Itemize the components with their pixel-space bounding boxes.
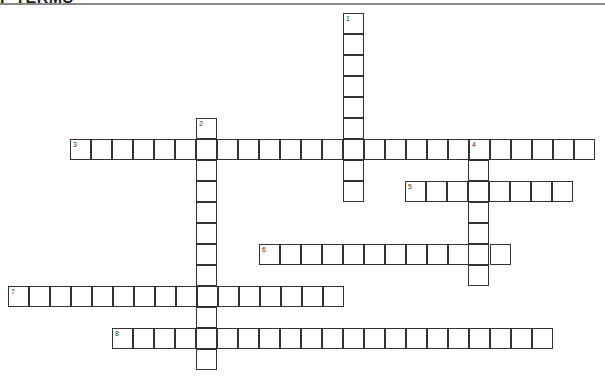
- crossword-cell[interactable]: [427, 328, 448, 349]
- crossword-cell[interactable]: [510, 181, 531, 202]
- crossword-cell[interactable]: [175, 139, 196, 160]
- crossword-cell[interactable]: 1: [343, 13, 364, 34]
- crossword-cell[interactable]: [133, 328, 154, 349]
- crossword-cell[interactable]: [323, 286, 344, 307]
- crossword-cell[interactable]: [134, 286, 155, 307]
- crossword-cell[interactable]: [259, 139, 280, 160]
- crossword-cell[interactable]: [322, 244, 343, 265]
- crossword-cell[interactable]: [343, 181, 364, 202]
- crossword-cell[interactable]: [280, 328, 301, 349]
- crossword-cell[interactable]: [511, 328, 532, 349]
- crossword-cell[interactable]: [217, 139, 238, 160]
- crossword-cell[interactable]: [553, 139, 574, 160]
- crossword-cell[interactable]: [343, 34, 364, 55]
- crossword-cell[interactable]: [196, 265, 217, 286]
- crossword-cell[interactable]: [238, 139, 259, 160]
- crossword-cell[interactable]: [490, 139, 511, 160]
- crossword-cell[interactable]: 8: [112, 328, 133, 349]
- crossword-cell[interactable]: 4: [469, 139, 490, 160]
- crossword-cell[interactable]: [490, 244, 511, 265]
- crossword-cell[interactable]: [176, 286, 197, 307]
- crossword-cell[interactable]: [406, 328, 427, 349]
- crossword-cell[interactable]: [301, 244, 322, 265]
- crossword-cell[interactable]: [196, 328, 217, 349]
- crossword-cell[interactable]: [280, 244, 301, 265]
- crossword-cell[interactable]: [343, 328, 364, 349]
- crossword-cell[interactable]: [133, 139, 154, 160]
- crossword-cell[interactable]: [322, 139, 343, 160]
- crossword-cell[interactable]: 5: [405, 181, 426, 202]
- crossword-cell[interactable]: [448, 244, 469, 265]
- crossword-cell[interactable]: [468, 223, 489, 244]
- crossword-cell[interactable]: [301, 328, 322, 349]
- crossword-cell[interactable]: [574, 139, 595, 160]
- crossword-cell[interactable]: [468, 265, 489, 286]
- crossword-cell[interactable]: [196, 223, 217, 244]
- crossword-cell[interactable]: [532, 328, 553, 349]
- crossword-cell[interactable]: [448, 139, 469, 160]
- crossword-cell[interactable]: [280, 139, 301, 160]
- crossword-cell[interactable]: [447, 181, 468, 202]
- crossword-cell[interactable]: [406, 139, 427, 160]
- crossword-cell[interactable]: [406, 244, 427, 265]
- crossword-cell[interactable]: [175, 328, 196, 349]
- crossword-cell[interactable]: [301, 139, 322, 160]
- crossword-cell[interactable]: [427, 244, 448, 265]
- crossword-cell[interactable]: [364, 139, 385, 160]
- crossword-cell[interactable]: 6: [259, 244, 280, 265]
- crossword-cell[interactable]: [343, 76, 364, 97]
- crossword-cell[interactable]: [92, 286, 113, 307]
- crossword-cell[interactable]: [260, 286, 281, 307]
- crossword-cell[interactable]: [343, 55, 364, 76]
- crossword-cell[interactable]: [196, 160, 217, 181]
- crossword-cell[interactable]: 2: [196, 118, 217, 139]
- crossword-cell[interactable]: [343, 118, 364, 139]
- crossword-cell[interactable]: [343, 160, 364, 181]
- crossword-cell[interactable]: [196, 181, 217, 202]
- crossword-cell[interactable]: [511, 139, 532, 160]
- crossword-cell[interactable]: [448, 328, 469, 349]
- crossword-cell[interactable]: [385, 244, 406, 265]
- crossword-cell[interactable]: [364, 244, 385, 265]
- crossword-cell[interactable]: [281, 286, 302, 307]
- crossword-cell[interactable]: [343, 139, 364, 160]
- crossword-cell[interactable]: [427, 139, 448, 160]
- crossword-cell[interactable]: [468, 202, 489, 223]
- crossword-cell[interactable]: [112, 139, 133, 160]
- crossword-cell[interactable]: [218, 286, 239, 307]
- crossword-cell[interactable]: [239, 286, 260, 307]
- crossword-cell[interactable]: [531, 181, 552, 202]
- crossword-cell[interactable]: [113, 286, 134, 307]
- crossword-cell[interactable]: [469, 328, 490, 349]
- crossword-cell[interactable]: [302, 286, 323, 307]
- crossword-cell[interactable]: [259, 328, 280, 349]
- crossword-cell[interactable]: 7: [8, 286, 29, 307]
- crossword-cell[interactable]: [426, 181, 447, 202]
- crossword-cell[interactable]: [385, 328, 406, 349]
- crossword-cell[interactable]: [468, 181, 489, 202]
- crossword-cell[interactable]: [343, 97, 364, 118]
- crossword-cell[interactable]: [238, 328, 259, 349]
- crossword-cell[interactable]: [196, 349, 217, 370]
- crossword-cell[interactable]: [490, 328, 511, 349]
- crossword-cell[interactable]: [154, 139, 175, 160]
- crossword-cell[interactable]: [196, 139, 217, 160]
- crossword-cell[interactable]: [217, 328, 238, 349]
- crossword-cell[interactable]: [364, 328, 385, 349]
- crossword-cell[interactable]: [71, 286, 92, 307]
- crossword-cell[interactable]: [532, 139, 553, 160]
- crossword-cell[interactable]: [91, 139, 112, 160]
- crossword-cell[interactable]: [489, 181, 510, 202]
- crossword-cell[interactable]: [385, 139, 406, 160]
- crossword-cell[interactable]: [552, 181, 573, 202]
- crossword-cell[interactable]: [468, 160, 489, 181]
- crossword-cell[interactable]: [343, 244, 364, 265]
- crossword-cell[interactable]: [196, 307, 217, 328]
- crossword-cell[interactable]: [468, 244, 489, 265]
- crossword-cell[interactable]: [322, 328, 343, 349]
- crossword-cell[interactable]: [29, 286, 50, 307]
- crossword-cell[interactable]: [50, 286, 71, 307]
- crossword-cell[interactable]: [154, 328, 175, 349]
- crossword-cell[interactable]: [197, 286, 218, 307]
- crossword-cell[interactable]: [196, 244, 217, 265]
